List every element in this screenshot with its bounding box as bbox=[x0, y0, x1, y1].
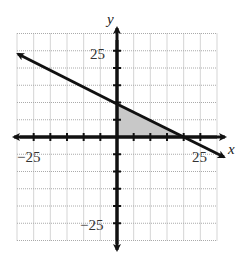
y-axis-label: y bbox=[105, 11, 114, 27]
y-tick-neg25: −25 bbox=[80, 217, 103, 233]
x-axis-label: x bbox=[227, 141, 235, 157]
x-tick-neg25: −25 bbox=[17, 149, 40, 165]
axes bbox=[14, 28, 225, 250]
y-tick-25: 25 bbox=[90, 46, 105, 62]
x-tick-25: 25 bbox=[192, 149, 207, 165]
graph: y x 25 −25 −25 25 bbox=[0, 0, 248, 262]
